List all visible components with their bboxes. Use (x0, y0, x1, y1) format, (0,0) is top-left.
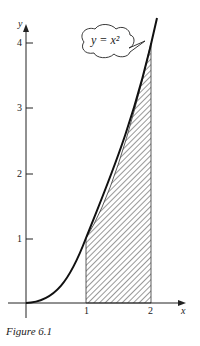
x-axis-label: x (181, 305, 185, 316)
figure-caption: Figure 6.1 (6, 325, 52, 337)
x-tick-1: 1 (84, 305, 89, 316)
function-label: y = x² (91, 33, 119, 48)
y-axis-label: y (18, 18, 22, 29)
y-tick-4: 4 (17, 37, 22, 48)
y-tick-1: 1 (17, 233, 22, 244)
y-tick-3: 3 (17, 102, 22, 113)
y-tick-2: 2 (17, 168, 22, 179)
x-tick-2: 2 (148, 305, 153, 316)
figure-graph (0, 0, 200, 346)
y-axis-arrow-icon (23, 24, 29, 32)
